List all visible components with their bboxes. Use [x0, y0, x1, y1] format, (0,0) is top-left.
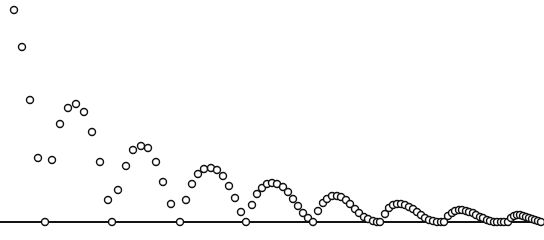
plot-background [0, 0, 544, 240]
data-point [189, 181, 196, 188]
data-point [238, 209, 245, 216]
data-point [285, 189, 292, 196]
data-point [123, 163, 130, 170]
data-point [249, 202, 256, 209]
data-point [138, 143, 145, 150]
data-point [177, 219, 184, 226]
data-point [254, 191, 261, 198]
data-point [195, 171, 202, 178]
data-point [35, 155, 42, 162]
data-point [97, 159, 104, 166]
data-point [377, 219, 384, 226]
data-point [27, 97, 34, 104]
data-point [168, 201, 175, 208]
data-point [295, 203, 302, 210]
data-point [226, 183, 233, 190]
data-point [49, 157, 56, 164]
data-point [160, 179, 167, 186]
data-point [243, 219, 250, 226]
data-point [42, 219, 49, 226]
data-point [65, 105, 72, 112]
data-point [57, 121, 64, 128]
data-point [145, 145, 152, 152]
data-point [315, 208, 322, 215]
data-point [19, 44, 26, 51]
data-point [105, 197, 112, 204]
data-point [310, 219, 317, 226]
data-point [73, 101, 80, 108]
data-point [11, 7, 18, 14]
data-point [214, 167, 221, 174]
data-point [220, 173, 227, 180]
data-point [115, 187, 122, 194]
trajectory-plot [0, 0, 544, 240]
data-point [290, 196, 297, 203]
data-point [89, 129, 96, 136]
bouncing-ball-figure [0, 0, 544, 240]
data-point [81, 109, 88, 116]
data-point [130, 147, 137, 154]
data-point [183, 197, 190, 204]
data-point [538, 219, 544, 226]
data-point [109, 219, 116, 226]
data-point [153, 159, 160, 166]
data-point [232, 195, 239, 202]
data-point [201, 166, 208, 173]
